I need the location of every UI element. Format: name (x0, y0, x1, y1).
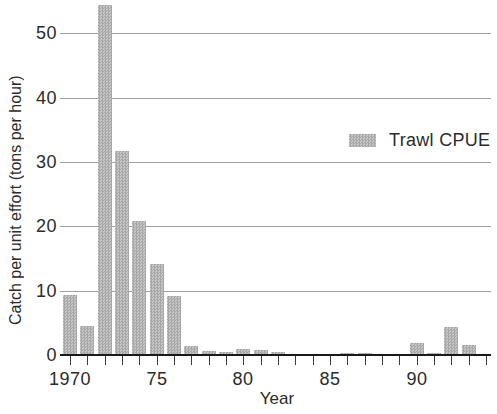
x-axis-line (60, 354, 491, 356)
plot-area: 01020304050 197075808590 Trawl CPUE (0, 0, 497, 414)
legend-label-trawl-cpue: Trawl CPUE (389, 130, 490, 151)
x-tick-label-1985: 85 (295, 369, 365, 389)
y-tick-label-50: 50 (8, 23, 57, 43)
gridline-50 (60, 33, 491, 34)
x-tick-1982 (278, 356, 279, 365)
bar-1975 (150, 264, 164, 355)
y-tick-label-30: 30 (8, 152, 57, 172)
gridline-40 (60, 98, 491, 99)
x-tick-1994 (486, 356, 487, 365)
x-tick-1975 (157, 356, 158, 365)
x-tick-1974 (139, 356, 140, 365)
legend-swatch-trawl-cpue (349, 134, 376, 147)
x-tick-1988 (382, 356, 383, 365)
x-tick-1976 (174, 356, 175, 365)
bar-1974 (132, 221, 146, 355)
bar-1972 (98, 5, 112, 355)
x-tick-1985 (330, 356, 331, 365)
y-tick-label-0: 0 (8, 345, 57, 365)
x-tick-1992 (451, 356, 452, 365)
x-tick-1978 (209, 356, 210, 365)
x-tick-label-1970: 1970 (35, 369, 105, 389)
x-tick-1973 (122, 356, 123, 365)
x-tick-1972 (105, 356, 106, 365)
x-tick-1993 (469, 356, 470, 365)
x-tick-label-1980: 80 (208, 369, 278, 389)
x-tick-1987 (365, 356, 366, 365)
x-tick-1981 (261, 356, 262, 365)
y-tick-label-20: 20 (8, 216, 57, 236)
x-tick-1989 (399, 356, 400, 365)
legend: Trawl CPUE (349, 129, 490, 151)
bar-1973 (115, 151, 129, 355)
bar-1976 (167, 296, 181, 355)
bar-1971 (80, 326, 94, 355)
x-tick-1980 (243, 356, 244, 365)
x-tick-label-1975: 75 (122, 369, 192, 389)
x-tick-1991 (434, 356, 435, 365)
x-tick-1971 (87, 356, 88, 365)
x-tick-label-1990: 90 (382, 369, 452, 389)
x-tick-1984 (313, 356, 314, 365)
x-tick-1979 (226, 356, 227, 365)
trawl-cpue-bar-chart: Catch per unit effort (tons per hour) 01… (0, 0, 497, 414)
x-tick-1986 (347, 356, 348, 365)
bar-1992 (444, 327, 458, 355)
y-tick-label-40: 40 (8, 88, 57, 108)
bar-1970 (63, 295, 77, 355)
x-tick-1977 (191, 356, 192, 365)
x-axis-title: Year (227, 389, 327, 411)
x-tick-1970 (70, 356, 71, 365)
x-tick-1990 (417, 356, 418, 365)
y-tick-label-10: 10 (8, 281, 57, 301)
x-tick-1983 (295, 356, 296, 365)
